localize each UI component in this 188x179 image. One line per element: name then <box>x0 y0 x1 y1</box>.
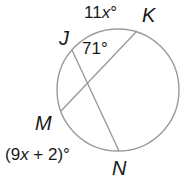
circle <box>57 29 179 151</box>
arc-jk-deg: ° <box>110 3 117 22</box>
point-k-label: K <box>142 5 155 25</box>
arc-jk-label: 11x° <box>84 4 117 21</box>
chord-jn <box>72 50 119 151</box>
arc-mn-rest: + 2)° <box>29 145 70 164</box>
arc-jk-coef: 11 <box>84 3 102 22</box>
point-n-label: N <box>112 158 126 178</box>
arc-mn-open: (9 <box>5 145 20 164</box>
arc-mn-label: (9x + 2)° <box>5 146 70 163</box>
arc-jk-var: x <box>102 3 111 22</box>
arc-mn-var: x <box>20 145 29 164</box>
point-m-label: M <box>35 113 52 133</box>
point-j-label: J <box>59 28 69 48</box>
angle-label: 71° <box>82 40 108 57</box>
